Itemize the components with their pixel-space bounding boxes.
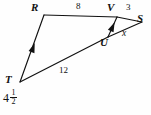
vertex-label-u: U — [100, 37, 108, 48]
vertex-label-s: S — [137, 13, 143, 24]
geometry-figure: R T V U S 8 3 12 x 4 1 2 — [0, 0, 151, 115]
vertex-label-t: T — [5, 74, 12, 85]
mixed-number-whole: 4 — [3, 92, 9, 104]
geometry-svg — [0, 0, 151, 115]
fraction-numerator: 1 — [11, 89, 17, 97]
parallel-arrow-uv-icon — [108, 21, 118, 32]
mixed-number-fraction: 1 2 — [10, 89, 17, 107]
measure-label-tu: 12 — [59, 66, 68, 75]
vertex-label-v: V — [107, 2, 114, 13]
segment-rv — [44, 15, 117, 17]
fraction-denominator: 2 — [11, 98, 17, 106]
measure-label-us: x — [122, 29, 126, 39]
measure-label-vs: 3 — [126, 3, 131, 12]
measure-label-rv: 8 — [76, 2, 81, 11]
measure-label-tr: 4 1 2 — [3, 89, 17, 107]
vertex-label-r: R — [31, 2, 38, 13]
